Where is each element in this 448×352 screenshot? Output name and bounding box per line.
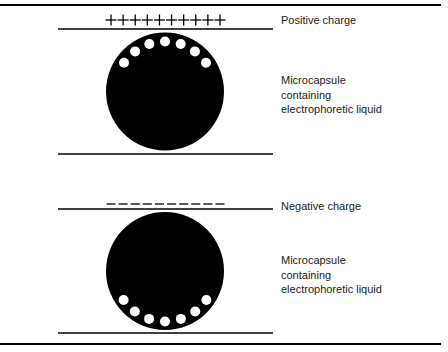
particle — [144, 39, 154, 49]
particle — [130, 307, 140, 317]
particle — [201, 295, 211, 305]
particle — [119, 295, 129, 305]
positive-charge-label: Positive charge — [281, 13, 356, 28]
particle — [160, 317, 170, 327]
diagram-canvas — [0, 0, 448, 352]
capsule-label-line: electrophoretic liquid — [281, 282, 382, 297]
particle — [176, 314, 186, 324]
capsule-label-line: containing — [281, 268, 382, 283]
capsule-label-line: Microcapsule — [281, 73, 382, 88]
capsule-label-line: containing — [281, 88, 382, 103]
microcapsule — [106, 33, 224, 151]
particle — [190, 46, 200, 56]
particle — [119, 58, 129, 68]
negative-charge-label: Negative charge — [281, 199, 361, 214]
capsule-label: Microcapsule containing electrophoretic … — [281, 73, 382, 117]
capsule-label: Microcapsule containing electrophoretic … — [281, 253, 382, 297]
negative-panel — [58, 204, 273, 333]
particle — [144, 314, 154, 324]
particle — [190, 307, 200, 317]
particle — [176, 39, 186, 49]
particle — [160, 37, 170, 47]
particle — [130, 46, 140, 56]
particle — [201, 58, 211, 68]
capsule-label-line: Microcapsule — [281, 253, 382, 268]
positive-panel — [58, 15, 273, 155]
positive-charge-symbols — [106, 15, 226, 26]
microcapsule — [106, 212, 224, 330]
capsule-label-line: electrophoretic liquid — [281, 102, 382, 117]
